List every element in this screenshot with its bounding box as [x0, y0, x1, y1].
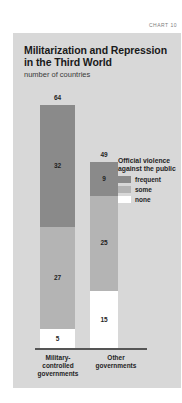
axis-baseline: [35, 348, 147, 350]
category-label-military: Military- controlled governments: [28, 354, 88, 378]
bar-segment-some-military: 27: [40, 227, 75, 330]
category-label-military-line1: Military-: [46, 354, 71, 361]
legend-label-some: some: [135, 186, 152, 193]
segment-value-some-other: 25: [90, 239, 118, 246]
legend-item-none: none: [118, 196, 180, 203]
bar-other-governments: 49 9 25 15: [90, 162, 118, 348]
category-label-other-line1: Other: [107, 354, 124, 361]
bar-segment-none-military: 5: [40, 329, 75, 348]
frequent-swatch-icon: [118, 176, 131, 183]
category-label-other: Other governments: [88, 354, 144, 370]
plot-area: 64 32 27 5 49 9 25 15 M: [13, 33, 181, 388]
legend-heading: Official violence against the public: [118, 157, 180, 173]
category-label-military-line2: controlled: [42, 362, 73, 369]
some-swatch-icon: [118, 186, 131, 193]
segment-value-none-military: 5: [40, 335, 75, 342]
bar-total-label-other: 49: [90, 151, 118, 158]
segment-value-some-military: 27: [40, 274, 75, 281]
legend-item-some: some: [118, 186, 180, 193]
segment-value-frequent-other: 9: [90, 175, 118, 182]
category-label-other-line2: governments: [96, 362, 137, 369]
bar-segment-frequent-other: 9: [90, 162, 118, 196]
chart-panel: Militarization and Repression in the Thi…: [13, 33, 181, 388]
chart-number-label: CHART 10: [149, 22, 177, 28]
legend: Official violence against the public fre…: [118, 157, 180, 203]
category-label-military-line3: governments: [38, 370, 79, 377]
legend-label-none: none: [135, 196, 151, 203]
none-swatch-icon: [118, 196, 131, 203]
bar-total-label-military: 64: [40, 94, 75, 101]
segment-value-frequent-military: 32: [40, 162, 75, 169]
bar-segment-some-other: 25: [90, 196, 118, 291]
bar-segment-frequent-military: 32: [40, 105, 75, 227]
bar-military-controlled: 64 32 27 5: [40, 105, 75, 348]
legend-item-frequent: frequent: [118, 176, 180, 183]
bar-segment-none-other: 15: [90, 291, 118, 348]
legend-label-frequent: frequent: [135, 176, 161, 183]
segment-value-none-other: 15: [90, 316, 118, 323]
